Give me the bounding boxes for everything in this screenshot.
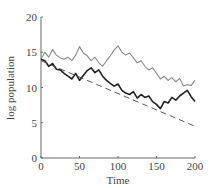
x-tick-label: 0 <box>38 160 44 172</box>
x-tick-label: 150 <box>148 160 165 172</box>
x-tick-label: 200 <box>187 160 204 172</box>
x-tick-label: 50 <box>74 160 86 172</box>
y-tick-label: 20 <box>26 11 38 23</box>
y-tick-label: 15 <box>26 46 38 58</box>
x-tick-label: 100 <box>110 160 127 172</box>
y-tick-label: 0 <box>32 152 38 164</box>
series-line-lower-trajectory <box>41 59 195 108</box>
x-axis-label: Time <box>107 174 130 186</box>
series-line-upper-trajectory <box>41 46 195 86</box>
y-tick-label: 10 <box>26 82 38 94</box>
axes: 05010015020005101520 <box>26 11 204 172</box>
y-tick-label: 5 <box>32 117 38 129</box>
series-line-deterministic-trend <box>41 61 195 127</box>
y-axis-label: log population <box>4 56 16 120</box>
series-group <box>41 46 195 126</box>
line-chart: 05010015020005101520 Time log population <box>0 0 210 188</box>
